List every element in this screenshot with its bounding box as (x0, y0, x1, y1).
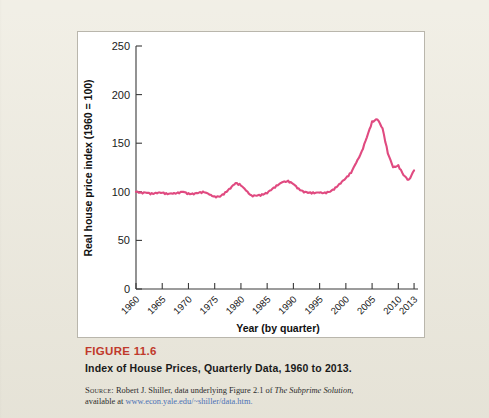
x-tick-label: 1970 (171, 294, 194, 317)
figure-number-label: FIGURE 11.6 (85, 345, 157, 357)
y-tick-label: 0 (124, 283, 130, 295)
figure-source-note: Source: Robert J. Shiller, data underlyi… (85, 385, 435, 408)
figure-caption-title: Index of House Prices, Quarterly Data, 1… (85, 362, 352, 374)
y-tick-label: 50 (118, 234, 130, 246)
source-kicker: Source: (85, 385, 114, 395)
x-tick-label: 1990 (276, 294, 299, 317)
y-axis-title: Real house price index (1960 = 100) (82, 79, 94, 256)
x-tick-label: 1995 (302, 294, 325, 317)
house-price-line-chart: 050100150200250 196019651970197519801985… (78, 32, 426, 339)
y-tick-label: 200 (112, 89, 130, 101)
source-url-link[interactable]: www.econ.yale.edu/~shiller/data.htm. (125, 397, 252, 406)
x-tick-label: 2005 (355, 294, 378, 317)
source-text-part1: Robert J. Shiller, data underlying Figur… (114, 386, 275, 395)
x-tick-label: 1980 (223, 294, 246, 317)
y-tick-label: 250 (112, 40, 130, 52)
x-tick-label: 1975 (197, 294, 220, 317)
x-axis-ticks: 1960196519701975198019851990199520002005… (119, 283, 420, 317)
source-text-part2: available at (85, 397, 125, 406)
x-tick-label: 1965 (145, 294, 168, 317)
x-tick-label: 2000 (328, 294, 351, 317)
y-tick-label: 100 (112, 186, 130, 198)
y-axis-ticks: 050100150200250 (112, 40, 142, 295)
price-index-line (136, 119, 414, 197)
x-tick-label: 1985 (250, 294, 273, 317)
x-tick-label: 1960 (119, 294, 142, 317)
source-book-title: The Subprime Solution, (275, 386, 354, 395)
y-tick-label: 150 (112, 137, 130, 149)
x-axis-title: Year (by quarter) (236, 322, 319, 334)
chart-panel: 050100150200250 196019651970197519801985… (77, 31, 425, 338)
x-tick-label: 2013 (397, 294, 420, 317)
chart-axes (136, 46, 418, 289)
